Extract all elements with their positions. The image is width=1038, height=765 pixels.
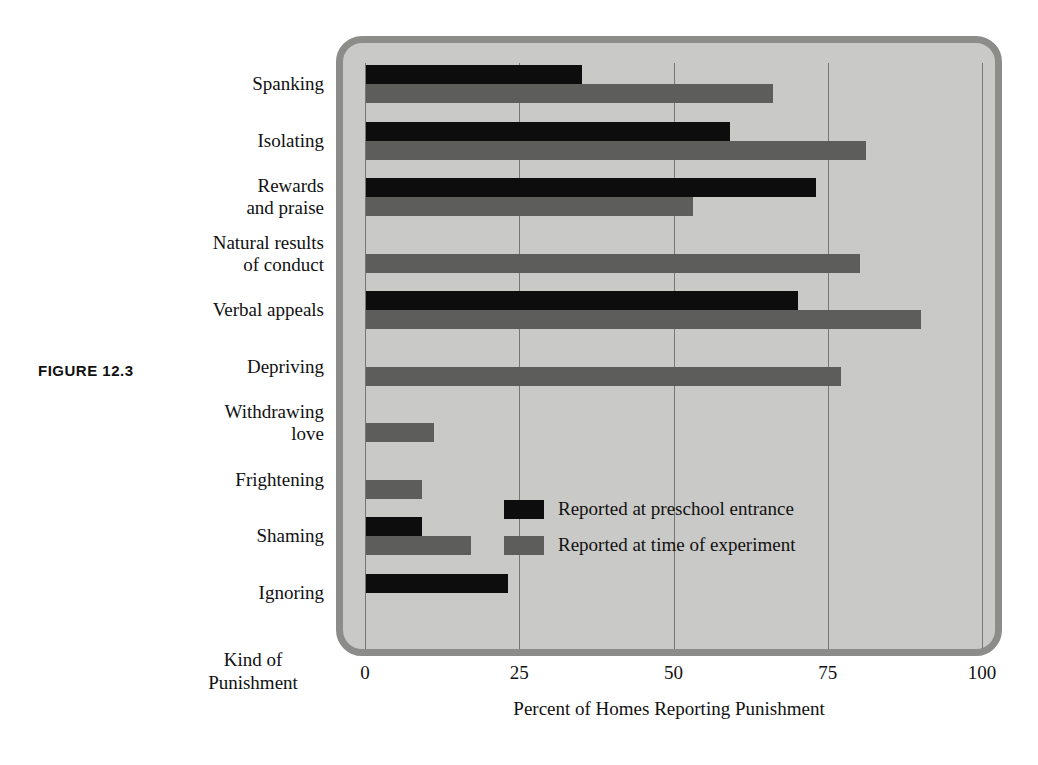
legend-item: Reported at time of experiment (504, 530, 884, 560)
bar (366, 254, 860, 273)
x-tick-label-100: 100 (968, 662, 997, 684)
gridline-100 (982, 63, 983, 649)
bar (366, 574, 508, 593)
bar (366, 517, 422, 536)
bar (366, 310, 921, 329)
category-label-frightening: Frightening (64, 469, 324, 491)
bar (366, 423, 434, 442)
category-label-withdrawing-love: Withdrawing love (64, 401, 324, 445)
x-axis-ticks: 0255075100 (336, 662, 1002, 688)
legend-label: Reported at time of experiment (558, 534, 795, 556)
category-axis-labels: SpankingIsolatingRewards and praiseNatur… (36, 36, 324, 656)
bar (366, 122, 730, 141)
bar (366, 480, 422, 499)
legend-label: Reported at preschool entrance (558, 498, 794, 520)
bar (366, 65, 582, 84)
category-label-depriving: Depriving (64, 356, 324, 378)
x-tick-label-0: 0 (360, 662, 370, 684)
category-label-rewards-and-praise: Rewards and praise (64, 175, 324, 219)
x-tick-label-50: 50 (664, 662, 683, 684)
bar (366, 536, 471, 555)
legend-swatch-icon (504, 500, 544, 519)
category-label-natural-results-of-conduct: Natural results of conduct (64, 232, 324, 276)
figure-container: FIGURE 12.3 SpankingIsolatingRewards and… (0, 0, 1038, 765)
bar (366, 84, 773, 103)
bar (366, 197, 693, 216)
category-label-ignoring: Ignoring (64, 582, 324, 604)
legend-swatch-icon (504, 536, 544, 555)
y-axis-title: Kind of Punishment (180, 648, 326, 694)
category-label-spanking: Spanking (64, 73, 324, 95)
bar (366, 291, 798, 310)
x-axis-title: Percent of Homes Reporting Punishment (336, 698, 1002, 720)
bar (366, 141, 866, 160)
chart-legend: Reported at preschool entranceReported a… (504, 494, 884, 566)
category-label-verbal-appeals: Verbal appeals (64, 299, 324, 321)
bar (366, 367, 841, 386)
bar (366, 178, 816, 197)
legend-item: Reported at preschool entrance (504, 494, 884, 524)
category-label-shaming: Shaming (64, 525, 324, 547)
x-tick-label-75: 75 (818, 662, 837, 684)
x-tick-label-25: 25 (510, 662, 529, 684)
category-label-isolating: Isolating (64, 130, 324, 152)
